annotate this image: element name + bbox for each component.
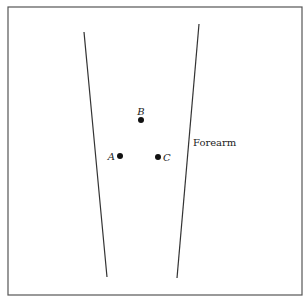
point-b-label: B: [136, 106, 144, 117]
point-b-dot: [138, 117, 144, 123]
point-c-dot: [155, 154, 161, 160]
point-a-label: A: [107, 151, 115, 162]
point-a-dot: [117, 153, 123, 159]
point-c-label: C: [163, 152, 171, 163]
forearm-label: Forearm: [193, 137, 237, 148]
diagram-frame: [8, 7, 302, 295]
forearm-diagram: B A C Forearm: [0, 0, 308, 300]
